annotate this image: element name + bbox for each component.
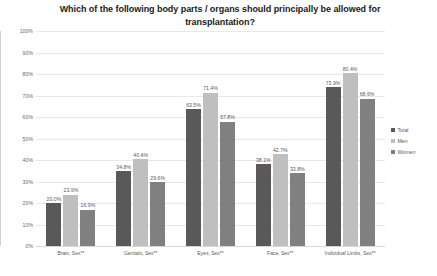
bar-rect [220, 122, 235, 246]
x-axis-category-label: Individual Limbs, Sex** [315, 250, 385, 256]
x-axis-category-label: Face, Sex** [245, 250, 315, 256]
bar[interactable]: 29.6% [150, 182, 165, 246]
bar-rect [203, 93, 218, 247]
bar-rect [46, 203, 61, 246]
plot-area: 20.0%23.9%16.9%34.8%40.4%29.6%63.5%71.4%… [36, 31, 385, 246]
bar-group: 63.5%71.4%57.8% [176, 31, 246, 246]
x-axis-category-label: Genitals, Sex** [106, 250, 176, 256]
legend-item[interactable]: Total [391, 124, 415, 135]
bar[interactable]: 38.1% [256, 164, 271, 246]
chart-container: Which of the following body parts / orga… [0, 0, 437, 276]
bar-rect [116, 171, 131, 246]
y-axis-tick-label: 20% [3, 200, 33, 206]
legend-label: Men [398, 138, 408, 144]
bar-group: 34.8%40.4%29.6% [106, 31, 176, 246]
x-axis-category-label: Eyes, Sex** [176, 250, 246, 256]
bar[interactable]: 63.5% [186, 109, 201, 246]
bar-value-label: 71.4% [203, 85, 218, 91]
bar-rect [133, 159, 148, 246]
bar[interactable]: 42.7% [273, 154, 288, 246]
chart-title: Which of the following body parts / orga… [52, 3, 388, 28]
y-axis-tick-label: 70% [3, 93, 33, 99]
bar[interactable]: 80.4% [343, 73, 358, 246]
y-axis-tick-label: 10% [3, 222, 33, 228]
bar[interactable]: 33.8% [290, 173, 305, 246]
bar-value-label: 57.8% [220, 114, 235, 120]
legend-label: Women [398, 149, 416, 155]
y-axis-tick-label: 90% [3, 50, 33, 56]
y-axis-tick-label: 30% [3, 179, 33, 185]
legend-label: Total [398, 127, 409, 133]
gridline [36, 246, 385, 247]
y-axis-tick-label: 60% [3, 114, 33, 120]
bar[interactable]: 23.9% [63, 195, 78, 246]
bar-rect [326, 87, 341, 246]
bar-value-label: 40.4% [133, 152, 148, 158]
bar-value-label: 68.6% [360, 91, 375, 97]
bar[interactable]: 68.6% [360, 99, 375, 246]
bar-value-label: 80.4% [343, 66, 358, 72]
legend-swatch-icon [391, 150, 395, 154]
bar-rect [273, 154, 288, 246]
legend-swatch-icon [391, 139, 395, 143]
chart-legend: TotalMenWomen [391, 124, 415, 157]
bar-rect [256, 164, 271, 246]
bar[interactable]: 16.9% [80, 210, 95, 246]
bar-rect [290, 173, 305, 246]
y-axis-tick-labels: 100%90%80%70%60%50%40%30%20%10%0% [0, 31, 33, 246]
y-axis-tick-label: 50% [3, 136, 33, 142]
legend-swatch-icon [391, 128, 395, 132]
bar-group: 38.1%42.7%33.8% [245, 31, 315, 246]
bar-value-label: 42.7% [273, 147, 288, 153]
bar-value-label: 20.0% [47, 196, 62, 202]
bar-rect [63, 195, 78, 246]
bar-rect [150, 182, 165, 246]
bar-value-label: 29.6% [150, 175, 165, 181]
legend-item[interactable]: Women [391, 146, 415, 157]
bar-value-label: 23.9% [64, 187, 79, 193]
bar-value-label: 63.5% [186, 102, 201, 108]
x-axis-category-label: Brain, Sex** [36, 250, 106, 256]
y-axis-tick-label: 0% [3, 243, 33, 249]
bar-rect [186, 109, 201, 246]
bar[interactable]: 57.8% [220, 122, 235, 246]
legend-item[interactable]: Men [391, 135, 415, 146]
bar[interactable]: 71.4% [203, 93, 218, 247]
bar-value-label: 16.9% [81, 202, 96, 208]
bar-value-label: 34.8% [116, 164, 131, 170]
bar-group: 73.9%80.4%68.6% [315, 31, 385, 246]
y-axis-tick-label: 80% [3, 71, 33, 77]
bar-rect [343, 73, 358, 246]
bar[interactable]: 34.8% [116, 171, 131, 246]
bar-value-label: 33.8% [290, 166, 305, 172]
bar-group: 20.0%23.9%16.9% [36, 31, 106, 246]
y-axis-tick-label: 40% [3, 157, 33, 163]
bar-rect [80, 210, 95, 246]
bar-value-label: 38.1% [256, 157, 271, 163]
bar-rect [360, 99, 375, 246]
bar[interactable]: 73.9% [326, 87, 341, 246]
bar[interactable]: 20.0% [46, 203, 61, 246]
bar-value-label: 73.9% [326, 80, 341, 86]
bar[interactable]: 40.4% [133, 159, 148, 246]
y-axis-tick-label: 100% [3, 28, 33, 34]
